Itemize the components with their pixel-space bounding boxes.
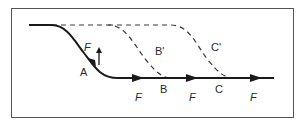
force-label-1: F xyxy=(135,92,142,103)
diagram-svg xyxy=(0,0,296,124)
point-label-b-prime: B' xyxy=(155,46,164,57)
diagram-canvas: F A B' C' F B F C F xyxy=(0,0,296,124)
solid-path-main xyxy=(29,25,274,78)
dashed-path-b-prime xyxy=(52,25,172,78)
point-label-c: C xyxy=(215,84,223,95)
force-arrow-up-head xyxy=(96,47,102,53)
point-label-c-prime: C' xyxy=(211,42,221,53)
arrow-head-2 xyxy=(186,74,198,82)
arrow-head-1 xyxy=(132,74,144,82)
force-label-a: F xyxy=(84,42,91,53)
point-label-a: A xyxy=(80,67,87,78)
force-label-3: F xyxy=(250,92,257,103)
point-label-b: B xyxy=(160,84,167,95)
force-label-2: F xyxy=(189,92,196,103)
arrow-head-3 xyxy=(250,74,262,82)
